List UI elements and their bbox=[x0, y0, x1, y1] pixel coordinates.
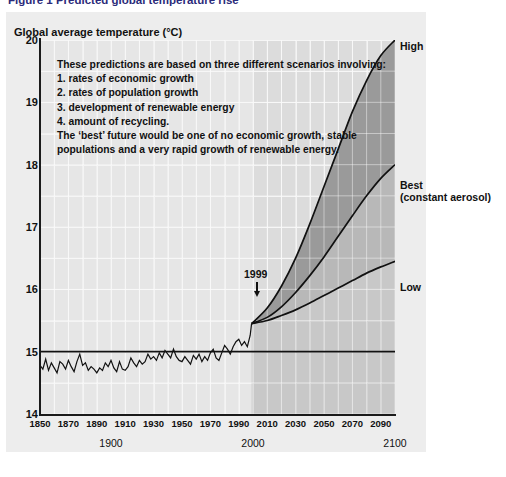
x-tick-label: 1890 bbox=[86, 418, 107, 429]
y-tick-labels: 20191817161514 bbox=[0, 0, 38, 477]
x-tick-label: 1930 bbox=[143, 418, 164, 429]
curve-observed bbox=[40, 324, 252, 373]
x-tick-label: 1870 bbox=[58, 418, 79, 429]
y-tick-label: 18 bbox=[4, 159, 38, 171]
annotation-line-7: populations and a very rapid growth of r… bbox=[57, 143, 367, 157]
x-tick-label: 1910 bbox=[115, 418, 136, 429]
annotation-line-4: 3. development of renewable energy bbox=[57, 101, 367, 115]
scenario-label-high: High bbox=[400, 40, 423, 52]
y-tick-label: 15 bbox=[4, 346, 38, 358]
x-tick-label: 2010 bbox=[257, 418, 278, 429]
x-tick-label: 2070 bbox=[342, 418, 363, 429]
y-tick-label: 19 bbox=[4, 96, 38, 108]
scenario-label-best: Best (constant aerosol) bbox=[400, 179, 491, 203]
annotation-line-5: 4. amount of recycling. bbox=[57, 115, 367, 129]
scenario-label-best-main: Best bbox=[400, 179, 423, 191]
x-tick-label: 2030 bbox=[285, 418, 306, 429]
x-axis-line bbox=[39, 414, 396, 416]
annotation-line-6: The ‘best’ future would be one of no eco… bbox=[57, 129, 367, 143]
annotation-text-block: These predictions are based on three dif… bbox=[57, 58, 367, 157]
annotation-line-1: These predictions are based on three dif… bbox=[57, 58, 367, 72]
x-tick-label: 2050 bbox=[313, 418, 334, 429]
scenario-label-low: Low bbox=[400, 281, 421, 293]
x-major-label: 1900 bbox=[99, 437, 122, 449]
y-axis-title: Global average temperature (°C) bbox=[14, 26, 182, 38]
x-tick-label: 1990 bbox=[228, 418, 249, 429]
annotation-line-3: 2. rates of population growth bbox=[57, 86, 367, 100]
scenario-label-best-sub: (constant aerosol) bbox=[400, 191, 491, 203]
x-tick-label: 1950 bbox=[171, 418, 192, 429]
y-tick-label: 16 bbox=[4, 283, 38, 295]
figure-title: Figure 1 Predicted global temperature ri… bbox=[8, 0, 239, 6]
x-major-label: 2000 bbox=[241, 437, 264, 449]
x-tick-label: 1970 bbox=[200, 418, 221, 429]
annotation-line-2: 1. rates of economic growth bbox=[57, 72, 367, 86]
y-tick-label: 20 bbox=[4, 34, 38, 46]
y-axis-line bbox=[39, 38, 41, 416]
x-major-label: 2100 bbox=[383, 437, 406, 449]
x-tick-label: 1850 bbox=[29, 418, 50, 429]
y-tick-label: 17 bbox=[4, 221, 38, 233]
x-tick-label: 2090 bbox=[370, 418, 391, 429]
marker-1999-label: 1999 bbox=[244, 268, 267, 280]
